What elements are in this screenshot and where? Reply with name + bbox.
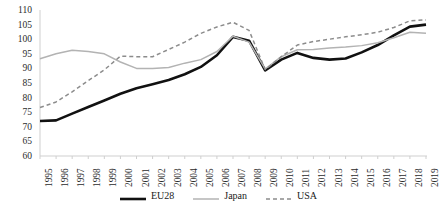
x-tick-label: 2018 bbox=[414, 157, 424, 187]
x-tick-label: 2017 bbox=[398, 157, 408, 187]
legend-label: Japan bbox=[224, 190, 247, 201]
legend-entry-usa[interactable]: USA bbox=[266, 190, 317, 201]
x-tick-label: 2001 bbox=[141, 157, 151, 187]
x-tick-label: 2015 bbox=[366, 157, 376, 187]
series-line-usa bbox=[40, 20, 426, 108]
x-tick-label: 1995 bbox=[44, 157, 54, 187]
y-tick-label: 75 bbox=[23, 107, 33, 117]
x-tick-label: 2016 bbox=[382, 157, 392, 187]
y-axis: 1101051009590858075706560 bbox=[0, 0, 36, 156]
y-tick-label: 95 bbox=[23, 49, 33, 59]
y-tick-label: 85 bbox=[23, 78, 33, 88]
x-tick-label: 2013 bbox=[334, 157, 344, 187]
x-tick-label: 2006 bbox=[221, 157, 231, 187]
x-tick-label: 1998 bbox=[92, 157, 102, 187]
x-tick-label: 1996 bbox=[60, 157, 70, 187]
y-tick-label: 65 bbox=[23, 136, 33, 146]
x-tick-label: 2002 bbox=[157, 157, 167, 187]
legend-swatch-japan bbox=[193, 190, 219, 200]
x-tick-label: 2011 bbox=[301, 157, 311, 187]
y-tick-label: 110 bbox=[18, 5, 32, 15]
x-tick-label: 2010 bbox=[285, 157, 295, 187]
chart-legend: EU28JapanUSA bbox=[0, 186, 437, 204]
x-tick-label: 2004 bbox=[189, 157, 199, 187]
x-tick-label: 2019 bbox=[430, 157, 440, 187]
x-tick-label: 2003 bbox=[173, 157, 183, 187]
legend-entry-eu28[interactable]: EU28 bbox=[120, 190, 174, 201]
x-tick-label: 2008 bbox=[253, 157, 263, 187]
x-tick-label: 2000 bbox=[124, 157, 134, 187]
legend-entry-japan[interactable]: Japan bbox=[193, 190, 247, 201]
chart-svg bbox=[40, 10, 427, 156]
y-tick-label: 60 bbox=[23, 151, 33, 161]
y-tick-label: 105 bbox=[18, 20, 32, 30]
legend-label: USA bbox=[297, 190, 317, 201]
legend-label: EU28 bbox=[151, 190, 174, 201]
legend-swatch-eu28 bbox=[120, 190, 146, 200]
y-tick-label: 70 bbox=[23, 122, 33, 132]
legend-swatch-usa bbox=[266, 190, 292, 200]
x-tick-label: 2014 bbox=[350, 157, 360, 187]
y-tick-label: 90 bbox=[23, 63, 33, 73]
x-tick-label: 1999 bbox=[108, 157, 118, 187]
series-line-eu28 bbox=[40, 25, 426, 121]
y-tick-label: 80 bbox=[23, 93, 33, 103]
y-tick-label: 100 bbox=[18, 34, 32, 44]
x-tick-label: 2005 bbox=[205, 157, 215, 187]
x-tick-label: 2007 bbox=[237, 157, 247, 187]
plot-area bbox=[40, 10, 427, 156]
x-tick-label: 2009 bbox=[269, 157, 279, 187]
x-tick-label: 2012 bbox=[317, 157, 327, 187]
x-tick-label: 1997 bbox=[76, 157, 86, 187]
